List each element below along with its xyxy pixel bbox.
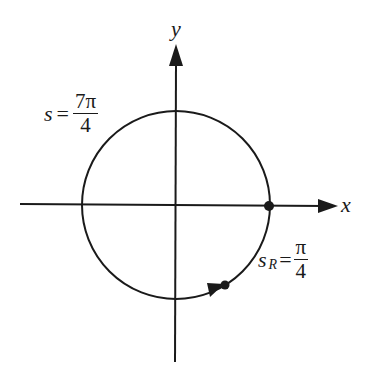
arc-denominator: 4 [80, 114, 91, 137]
reference-subscript: R [269, 258, 278, 272]
equals-sign: = [57, 103, 69, 125]
terminal-point-dot [221, 281, 230, 290]
arc-numerator: 7π [73, 90, 98, 114]
unit-circle-diagram [0, 0, 369, 371]
x-axis-arrow-icon [318, 199, 338, 213]
start-point-dot [264, 201, 274, 211]
reference-arc-label: s R = π 4 [258, 236, 308, 283]
x-axis [20, 199, 338, 213]
x-axis-label: x [341, 194, 351, 216]
y-axis-label: y [171, 18, 181, 40]
arc-variable: s [44, 103, 53, 125]
reference-fraction: π 4 [294, 236, 309, 283]
arc-length-label: s = 7π 4 [44, 90, 98, 137]
equals-sign: = [279, 249, 291, 271]
reference-variable: s [258, 249, 267, 271]
reference-denominator: 4 [296, 260, 307, 283]
y-axis [169, 44, 183, 362]
arc-fraction: 7π 4 [73, 90, 98, 137]
y-axis-arrow-icon [169, 44, 183, 66]
reference-numerator: π [294, 236, 309, 260]
